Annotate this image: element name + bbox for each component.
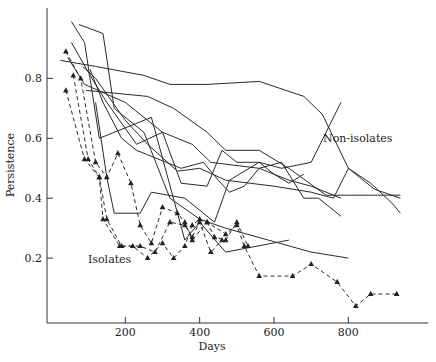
triangle-marker-icon [368, 291, 374, 296]
triangle-marker-icon [82, 156, 88, 161]
triangle-marker-icon [130, 243, 136, 248]
non-isolates-line [71, 22, 289, 253]
x-axis-label: Days [198, 340, 226, 353]
triangle-marker-icon [256, 273, 262, 278]
triangle-marker-icon [189, 222, 195, 227]
x-tick-label: 400 [189, 326, 210, 339]
y-tick-label: 0.2 [25, 252, 43, 265]
triangle-marker-icon [93, 159, 99, 164]
x-tick-label: 200 [115, 326, 136, 339]
x-tick-label: 800 [338, 326, 359, 339]
triangle-marker-icon [104, 174, 110, 179]
triangle-marker-icon [308, 261, 314, 266]
triangle-marker-icon [245, 243, 251, 248]
triangle-marker-icon [152, 249, 158, 254]
triangle-marker-icon [394, 291, 400, 296]
y-tick-label: 0.4 [25, 192, 43, 205]
non-isolates-line [96, 102, 304, 222]
non-isolates-line [71, 43, 341, 187]
triangle-marker-icon [167, 219, 173, 224]
triangle-marker-icon [353, 303, 359, 308]
isolates-line [66, 90, 222, 252]
y-tick-label: 0.6 [25, 132, 43, 145]
non-isolates-line [79, 25, 349, 259]
triangle-marker-icon [182, 243, 188, 248]
triangle-marker-icon [115, 150, 121, 155]
x-tick-label: 600 [264, 326, 285, 339]
triangle-marker-icon [219, 237, 225, 242]
triangle-marker-icon [290, 273, 296, 278]
triangle-marker-icon [137, 243, 143, 248]
triangle-marker-icon [63, 48, 69, 53]
annotation-non-isolates: Non-isolates [323, 132, 393, 145]
triangle-marker-icon [223, 231, 229, 236]
triangle-marker-icon [160, 204, 166, 209]
triangle-marker-icon [234, 219, 240, 224]
triangle-marker-icon [71, 72, 77, 77]
axis-ticks: 2004006008000.20.40.60.8 [25, 72, 359, 339]
triangle-marker-icon [104, 216, 110, 221]
triangle-marker-icon [160, 240, 166, 245]
non-isolates-line [90, 69, 341, 216]
annotation-isolates: Isolates [88, 253, 132, 266]
triangle-marker-icon [128, 180, 134, 185]
y-axis-label: Persistence [4, 133, 17, 197]
triangle-marker-icon [137, 222, 143, 227]
triangle-marker-icon [63, 87, 69, 92]
persistence-chart: 2004006008000.20.40.60.8 Days Persistenc… [0, 0, 436, 362]
triangle-marker-icon [334, 279, 340, 284]
triangle-marker-icon [145, 255, 151, 260]
y-tick-label: 0.8 [25, 72, 43, 85]
